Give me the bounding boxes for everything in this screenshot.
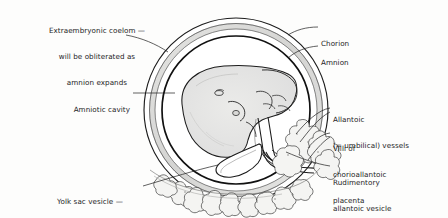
label-line: Extraembryonic coelom — <box>22 27 172 36</box>
label-yolk-sac-vesicle: Yolk sac vesicle — contains no yolk <box>38 181 142 218</box>
label-rudimentary-allantoic-vesicle: Rudimentory allantoic vesicle <box>333 162 391 218</box>
label-line: Villi of <box>333 145 387 154</box>
label-line: Amnion <box>321 59 349 68</box>
label-line: Rudimentory <box>333 179 391 188</box>
label-amnion: Amnion <box>321 42 349 76</box>
label-line: allantoic vesicle <box>333 205 391 214</box>
label-line: Allantoic <box>333 116 409 125</box>
label-line: will be obliterated as <box>22 53 172 62</box>
label-line: amnion expands <box>22 79 172 88</box>
label-extraembryonic-coelom: Extraembryonic coelom — will be oblitera… <box>22 10 172 96</box>
label-amniotic-cavity: Amniotic cavity <box>33 89 130 123</box>
label-line: Amniotic cavity <box>33 106 130 115</box>
label-line: Yolk sac vesicle — <box>38 198 142 207</box>
